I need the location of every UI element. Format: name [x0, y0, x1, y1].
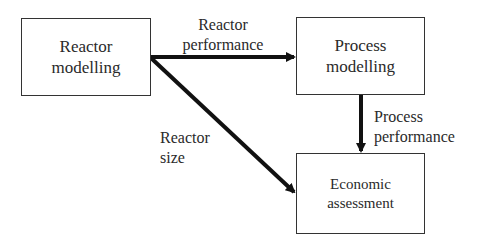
reactor-modelling-label-line2: modelling [52, 57, 121, 78]
reactor-modelling-node: Reactor modelling [21, 18, 151, 96]
arrow-reactor-size [151, 58, 294, 192]
reactor-performance-line2: performance [168, 35, 278, 55]
economic-assessment-label-line1: Economic [330, 175, 391, 194]
reactor-performance-label: Reactor performance [168, 15, 278, 55]
reactor-size-line1: Reactor [160, 128, 210, 148]
process-modelling-label-line1: Process [335, 35, 387, 56]
economic-assessment-node: Economic assessment [296, 153, 425, 234]
process-modelling-node: Process modelling [296, 17, 425, 95]
process-performance-line1: Process [374, 107, 455, 127]
reactor-performance-line1: Reactor [168, 15, 278, 35]
reactor-size-line2: size [160, 148, 210, 168]
process-modelling-label-line2: modelling [326, 56, 395, 77]
economic-assessment-label-line2: assessment [327, 194, 394, 213]
reactor-size-label: Reactor size [160, 128, 210, 168]
process-performance-label: Process performance [374, 107, 455, 147]
process-performance-line2: performance [374, 127, 455, 147]
reactor-modelling-label-line1: Reactor [60, 36, 113, 57]
